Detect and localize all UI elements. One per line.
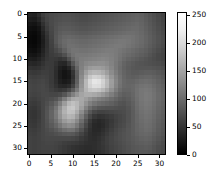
colorbar-tick-mark bbox=[187, 127, 190, 128]
y-tick-label: 15 bbox=[0, 78, 22, 85]
colorbar bbox=[177, 12, 187, 155]
y-tick-mark bbox=[24, 104, 27, 105]
colorbar-tick-label: 0 bbox=[192, 151, 197, 158]
x-tick-mark bbox=[159, 155, 160, 158]
y-tick-label: 30 bbox=[0, 145, 22, 152]
x-tick-label: 10 bbox=[68, 160, 77, 167]
colorbar-tick-mark bbox=[187, 155, 190, 156]
image-plot-axes bbox=[27, 12, 166, 155]
y-tick-mark bbox=[24, 59, 27, 60]
colorbar-tick-mark bbox=[187, 43, 190, 44]
y-tick-mark bbox=[24, 81, 27, 82]
colorbar-tick-label: 50 bbox=[192, 123, 201, 130]
colorbar-tick-label: 150 bbox=[192, 67, 206, 74]
x-tick-label: 15 bbox=[90, 160, 99, 167]
x-tick-mark bbox=[116, 155, 117, 158]
x-tick-label: 20 bbox=[111, 160, 120, 167]
grayscale-image bbox=[28, 13, 165, 154]
colorbar-tick-mark bbox=[187, 71, 190, 72]
matplotlib-figure: 051015202530 051015202530 05010015020025… bbox=[0, 0, 212, 181]
y-tick-label: 5 bbox=[0, 33, 22, 40]
colorbar-tick-label: 100 bbox=[192, 95, 206, 102]
colorbar-tick-label: 200 bbox=[192, 39, 206, 46]
y-tick-mark bbox=[24, 126, 27, 127]
colorbar-tick-mark bbox=[187, 15, 190, 16]
x-tick-label: 5 bbox=[49, 160, 54, 167]
y-tick-mark bbox=[24, 14, 27, 15]
colorbar-tick-label: 250 bbox=[192, 11, 206, 18]
x-tick-mark bbox=[29, 155, 30, 158]
x-tick-label: 30 bbox=[155, 160, 164, 167]
y-tick-label: 20 bbox=[0, 100, 22, 107]
x-tick-mark bbox=[51, 155, 52, 158]
x-tick-label: 25 bbox=[133, 160, 142, 167]
y-tick-mark bbox=[24, 37, 27, 38]
x-tick-mark bbox=[138, 155, 139, 158]
y-tick-mark bbox=[24, 148, 27, 149]
y-tick-label: 0 bbox=[0, 11, 22, 18]
colorbar-tick-mark bbox=[187, 99, 190, 100]
x-tick-mark bbox=[94, 155, 95, 158]
y-tick-label: 25 bbox=[0, 122, 22, 129]
y-tick-label: 10 bbox=[0, 55, 22, 62]
x-tick-mark bbox=[73, 155, 74, 158]
x-tick-label: 0 bbox=[27, 160, 32, 167]
